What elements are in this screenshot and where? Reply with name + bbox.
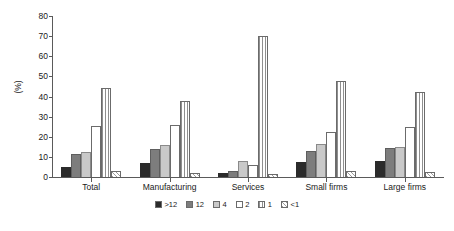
bar [306,151,316,177]
bar [140,163,150,177]
y-tick-mark [49,157,52,158]
x-tick-label: Total [82,182,100,192]
plot-area: 01020304050607080 TotalManufacturingServ… [52,16,444,178]
y-tick-label: 40 [18,93,48,101]
legend-swatch-icon [186,201,193,208]
bar [425,172,435,177]
y-tick-label: 10 [18,153,48,161]
y-tick-label: 50 [18,72,48,80]
bar [385,148,395,177]
bar [316,144,326,177]
y-tick-mark [49,117,52,118]
y-tick-label: 60 [18,52,48,60]
bar [190,173,200,177]
bar [346,171,356,177]
legend-swatch-icon [155,201,162,208]
y-tick-mark [49,36,52,37]
bar-group [61,16,121,177]
bar [218,173,228,177]
bar [170,125,180,177]
y-tick-mark [49,76,52,77]
legend-swatch-icon [236,201,243,208]
bar [296,162,306,177]
y-tick-label: 80 [18,12,48,20]
bar [326,132,336,177]
bar [81,152,91,177]
y-tick-mark [49,16,52,17]
bar [405,127,415,177]
bar [248,165,258,177]
y-tick-label: 20 [18,133,48,141]
legend-swatch-icon [258,201,265,208]
bar [160,145,170,177]
bar [258,36,268,177]
legend-label: <1 [291,201,300,208]
bar-group [375,16,435,177]
x-tick-label: Small firms [305,182,347,192]
bar [111,171,121,177]
legend-swatch-icon [281,201,288,208]
bar [91,126,101,177]
y-tick-label: 70 [18,32,48,40]
bar [336,81,346,177]
legend-label: 1 [268,201,272,208]
y-tick-label: 30 [18,113,48,121]
bar-group [218,16,278,177]
y-tick-mark [49,97,52,98]
legend-label: 2 [245,201,249,208]
x-tick-label: Large firms [384,182,427,192]
bar-chart: (%) 01020304050607080 TotalManufacturing… [0,0,454,231]
bar [268,174,278,177]
legend-item[interactable]: 1 [258,201,272,208]
legend-item[interactable]: 2 [236,201,250,208]
bar [375,161,385,177]
x-tick-label: Manufacturing [143,182,197,192]
y-tick-mark [49,137,52,138]
y-tick-mark [49,177,52,178]
chart-legend: >1212421<1 [0,201,454,208]
legend-item[interactable]: <1 [281,201,299,208]
y-axis-line [52,16,53,178]
legend-label: 4 [223,201,227,208]
legend-label: 12 [196,201,204,208]
x-tick-label: Services [232,182,265,192]
bar [238,161,248,177]
bar [228,171,238,177]
bar [395,147,405,177]
bar [150,149,160,177]
bar-group [140,16,200,177]
legend-label: >12 [164,201,177,208]
legend-item[interactable]: >12 [155,201,177,208]
y-tick-mark [49,56,52,57]
bar [101,88,111,177]
bar [71,154,81,177]
bar [415,92,425,177]
legend-swatch-icon [213,201,220,208]
bar [180,101,190,177]
bar-group [296,16,356,177]
legend-item[interactable]: 4 [213,201,227,208]
bar [61,167,71,177]
y-tick-label: 0 [18,173,48,181]
legend-item[interactable]: 12 [186,201,204,208]
